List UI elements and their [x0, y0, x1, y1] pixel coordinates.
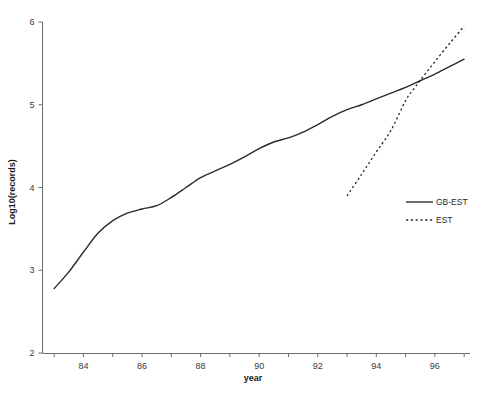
- x-tick-label: 90: [254, 361, 264, 371]
- y-tick-label: 4: [29, 183, 34, 193]
- y-tick-label: 6: [29, 17, 34, 27]
- x-axis-title: year: [244, 373, 263, 383]
- y-tick-label: 5: [29, 100, 34, 110]
- y-axis: 23456 Log10(records): [7, 17, 43, 358]
- x-axis: 84868890929496 year: [43, 353, 471, 383]
- y-axis-title: Log10(records): [7, 159, 17, 225]
- series-line-est: [347, 26, 464, 196]
- series-line-gb-est: [54, 59, 464, 288]
- line-chart: 23456 Log10(records) 84868890929496 year…: [0, 0, 490, 402]
- y-tick-label: 3: [29, 265, 34, 275]
- legend: GB-EST EST: [406, 197, 468, 225]
- legend-label-gb-est: GB-EST: [436, 197, 468, 207]
- x-tick-label: 92: [313, 361, 323, 371]
- x-tick-label: 96: [430, 361, 440, 371]
- y-axis-ticks: [39, 22, 43, 353]
- x-tick-label: 88: [196, 361, 206, 371]
- x-tick-label: 86: [137, 361, 147, 371]
- x-axis-tick-labels: 84868890929496: [78, 361, 439, 371]
- y-tick-label: 2: [29, 348, 34, 358]
- x-tick-label: 84: [78, 361, 88, 371]
- y-axis-tick-labels: 23456: [29, 17, 34, 358]
- legend-label-est: EST: [436, 215, 453, 225]
- x-tick-label: 94: [371, 361, 381, 371]
- data-series-group: [54, 26, 464, 288]
- chart-container: 23456 Log10(records) 84868890929496 year…: [0, 0, 490, 402]
